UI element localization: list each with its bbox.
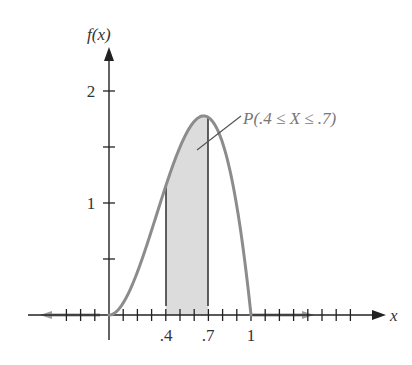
y-tick-label-1: 1 bbox=[87, 194, 96, 213]
x-tick-label-07: .7 bbox=[202, 326, 215, 345]
y-axis-label: f(x) bbox=[87, 25, 111, 44]
y-axis-arrowhead-icon bbox=[104, 47, 114, 61]
x-tick-label-1: 1 bbox=[247, 326, 256, 345]
probability-annotation: P(.4 ≤ X ≤ .7) bbox=[242, 109, 337, 128]
probability-density-chart: f(x) x 1 2 .4 .7 1 P(.4 ≤ X ≤ .7) bbox=[0, 0, 412, 365]
y-tick-label-2: 2 bbox=[87, 82, 96, 101]
x-tick-label-04: .4 bbox=[160, 326, 173, 345]
x-axis-arrowhead-icon bbox=[372, 310, 386, 320]
x-axis-label: x bbox=[389, 306, 398, 325]
